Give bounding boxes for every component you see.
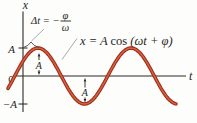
x-axis-label: x bbox=[22, 0, 29, 12]
arrowhead-up-icon bbox=[84, 78, 87, 82]
arrowhead-down-icon bbox=[84, 99, 87, 103]
equation-text: x = A cos (ωt + φ) bbox=[79, 34, 173, 48]
equation-lhs: x = A bbox=[79, 34, 111, 48]
trough-arrow-label: A bbox=[81, 87, 89, 98]
equation-arg: (ωt + φ) bbox=[130, 34, 172, 48]
phase-numerator-text: φ bbox=[63, 10, 69, 21]
equation-leader bbox=[62, 39, 77, 60]
equation-func: cos bbox=[111, 34, 131, 48]
t-axis-label: t bbox=[189, 69, 193, 83]
phase-lhs-text: Δt = − bbox=[30, 15, 60, 26]
peak-amplitude-arrow: A bbox=[35, 53, 43, 75]
arrowhead-down-icon bbox=[38, 71, 41, 75]
phase-annotation-leader bbox=[32, 29, 45, 41]
amp-pos-label: A bbox=[7, 43, 15, 55]
trough-amplitude-arrow: A bbox=[81, 78, 89, 103]
arrowhead-up-icon bbox=[38, 53, 41, 57]
phase-annotation: Δt = − φ ω bbox=[30, 10, 71, 33]
phase-interval-brace bbox=[24, 42, 40, 48]
phase-denominator-text: ω bbox=[62, 22, 69, 33]
amp-neg-label: −A bbox=[3, 98, 17, 110]
graph-svg: x t A −A 0 A A bbox=[0, 0, 197, 123]
figure-container: x t A −A 0 A A bbox=[0, 0, 197, 123]
peak-arrow-label: A bbox=[35, 60, 43, 71]
